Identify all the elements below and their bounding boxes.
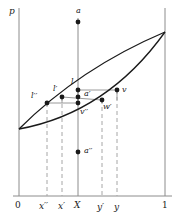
point-label-ap: a′ xyxy=(84,90,91,98)
point-v xyxy=(115,88,120,93)
point-label-vpp: v′′ xyxy=(80,108,88,116)
axis-label-yp: y′ xyxy=(97,203,104,212)
point-l xyxy=(76,88,81,93)
point-label-l: l xyxy=(71,78,74,86)
axis-label-xpp: x′′ xyxy=(39,202,48,211)
upper-curve xyxy=(19,32,165,129)
point-label-app: a′′ xyxy=(84,147,92,155)
axis-label-one: 1 xyxy=(162,201,168,210)
point-label-lp: l′ xyxy=(53,85,57,93)
lower-curve xyxy=(19,32,165,129)
axis-label-origin: 0 xyxy=(15,201,21,210)
point-vpp xyxy=(76,101,81,106)
point-label-lpp: l′′ xyxy=(31,92,37,100)
axis-label-xp: x′ xyxy=(58,202,65,211)
axis-label-X: X xyxy=(74,201,80,210)
figure-canvas: p a l l′ l′′ a′ v w′ v′′ a′′ 0 x′′ x′ X … xyxy=(0,0,177,219)
point-label-wp: w′ xyxy=(103,103,112,111)
point-lp xyxy=(60,95,65,100)
point-lpp xyxy=(45,101,50,106)
point-a xyxy=(76,20,81,25)
p-axis-label: p xyxy=(9,7,15,16)
point-label-a: a xyxy=(76,7,81,15)
point-label-v: v xyxy=(122,86,127,94)
diagram-svg xyxy=(0,0,177,219)
point-app xyxy=(76,150,81,155)
point-ap xyxy=(76,95,81,100)
axis-label-y: y xyxy=(114,203,119,212)
